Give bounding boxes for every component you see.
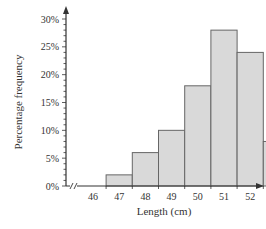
histogram-chart: 0%5%10%15%20%25%30%46474849505152535455L… bbox=[0, 0, 266, 229]
y-tick-label: 30% bbox=[41, 14, 59, 25]
y-axis-label: Percentage frequency bbox=[12, 54, 24, 149]
histogram-bar bbox=[211, 30, 237, 186]
histogram-bar bbox=[106, 175, 132, 186]
y-tick-label: 15% bbox=[41, 97, 59, 108]
x-tick-label: 48 bbox=[140, 191, 150, 202]
y-tick-label: 25% bbox=[41, 41, 59, 52]
x-tick-label: 47 bbox=[114, 191, 124, 202]
y-tick-label: 0% bbox=[46, 181, 59, 192]
histogram-bar bbox=[159, 130, 185, 186]
y-axis-arrow-icon bbox=[63, 6, 69, 14]
x-axis-label: Length (cm) bbox=[137, 205, 192, 218]
y-tick-label: 20% bbox=[41, 69, 59, 80]
x-tick-label: 49 bbox=[167, 191, 177, 202]
y-tick-label: 5% bbox=[46, 153, 59, 164]
x-tick-label: 50 bbox=[193, 191, 203, 202]
x-tick-label: 52 bbox=[245, 191, 255, 202]
histogram-bar bbox=[237, 52, 263, 186]
histogram-bar bbox=[132, 153, 158, 186]
histogram-bar bbox=[263, 141, 266, 186]
histogram-bar bbox=[185, 86, 211, 186]
y-tick-label: 10% bbox=[41, 125, 59, 136]
x-tick-label: 51 bbox=[219, 191, 229, 202]
x-tick-label: 46 bbox=[88, 191, 98, 202]
